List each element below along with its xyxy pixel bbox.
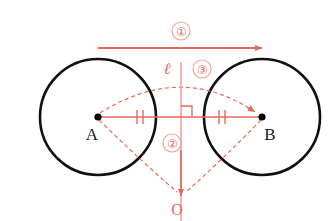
step-three-number: ③: [197, 63, 208, 77]
step-one-number: ①: [176, 25, 187, 39]
line-label-ell: ℓ: [164, 60, 171, 77]
point-a-dot: [94, 113, 101, 120]
diagram-canvas: A B O ℓ ① ② ③: [0, 0, 335, 221]
point-label-a: A: [86, 125, 99, 144]
point-label-b: B: [264, 125, 275, 144]
background: [0, 0, 335, 221]
point-b-dot: [258, 113, 265, 120]
geometry-diagram: A B O ℓ ① ② ③: [0, 0, 335, 221]
point-label-o: O: [171, 201, 183, 218]
step-two-number: ②: [167, 137, 178, 151]
